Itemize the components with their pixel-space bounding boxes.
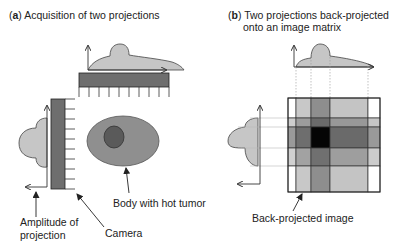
matrix-cell [330,98,368,118]
matrix-cell [288,127,296,148]
back-projected-image-label: Back-projected image [252,212,354,224]
b-side-projection-profile [228,118,258,166]
matrix-cell [296,166,311,192]
matrix-cell [368,166,380,192]
back-projected-image-matrix [288,98,380,192]
matrix-cell [311,118,330,127]
top-camera [79,73,169,97]
matrix-cell [330,118,368,127]
side-projection-profile [19,118,47,167]
body-pointer-arrow [126,168,129,193]
matrix-cell [296,148,311,166]
matrix-cell [296,118,311,127]
matrix-cell [368,127,380,148]
matrix-cell [288,98,296,118]
image-pointer-arrow [293,194,302,211]
diagram-canvas [0,0,393,247]
matrix-cell [368,118,380,127]
matrix-cell [311,98,330,118]
hot-tumor [104,126,124,148]
matrix-cell [368,148,380,166]
camera-label: Camera [105,227,142,239]
matrix-cell [368,98,380,118]
matrix-cell [296,127,311,148]
camera-pointer-arrow [77,194,104,227]
top-projection-profile [88,44,184,70]
side-camera [51,99,75,189]
matrix-cell [311,127,330,148]
body-label: Body with hot tumor [113,197,206,209]
b-top-projection-profile [296,44,374,67]
matrix-cell [330,148,368,166]
matrix-cell [296,98,311,118]
amplitude-label-line1: Amplitude of [20,216,78,228]
matrix-cell [288,166,296,192]
matrix-cell [330,166,368,192]
amplitude-label-line2: projection [20,229,66,241]
matrix-cell [330,127,368,148]
matrix-cell [288,148,296,166]
matrix-cell [311,166,330,192]
matrix-cell [311,148,330,166]
matrix-cell [288,118,296,127]
